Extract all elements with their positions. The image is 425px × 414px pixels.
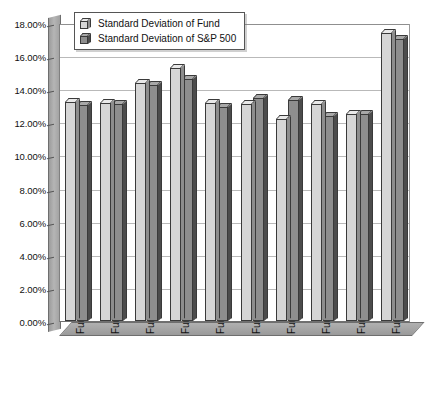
bar bbox=[205, 103, 216, 321]
legend-label-fund: Standard Deviation of Fund bbox=[98, 18, 220, 29]
bar bbox=[170, 68, 181, 321]
legend-label-sp500: Standard Deviation of S&P 500 bbox=[98, 33, 236, 44]
legend-swatch-fund-icon bbox=[80, 19, 91, 29]
legend-item-fund: Standard Deviation of Fund bbox=[80, 16, 236, 31]
legend-swatch-sp500-icon bbox=[80, 34, 91, 44]
bar bbox=[100, 103, 111, 321]
bar bbox=[381, 33, 392, 321]
legend-item-sp500: Standard Deviation of S&P 500 bbox=[80, 31, 236, 46]
chart-legend: Standard Deviation of Fund Standard Devi… bbox=[74, 12, 245, 50]
bar bbox=[311, 104, 322, 321]
bar-group bbox=[376, 24, 411, 321]
bar bbox=[241, 104, 252, 321]
bar bbox=[346, 114, 357, 321]
bar bbox=[65, 102, 76, 321]
bar bbox=[135, 83, 146, 321]
bar bbox=[276, 119, 287, 321]
